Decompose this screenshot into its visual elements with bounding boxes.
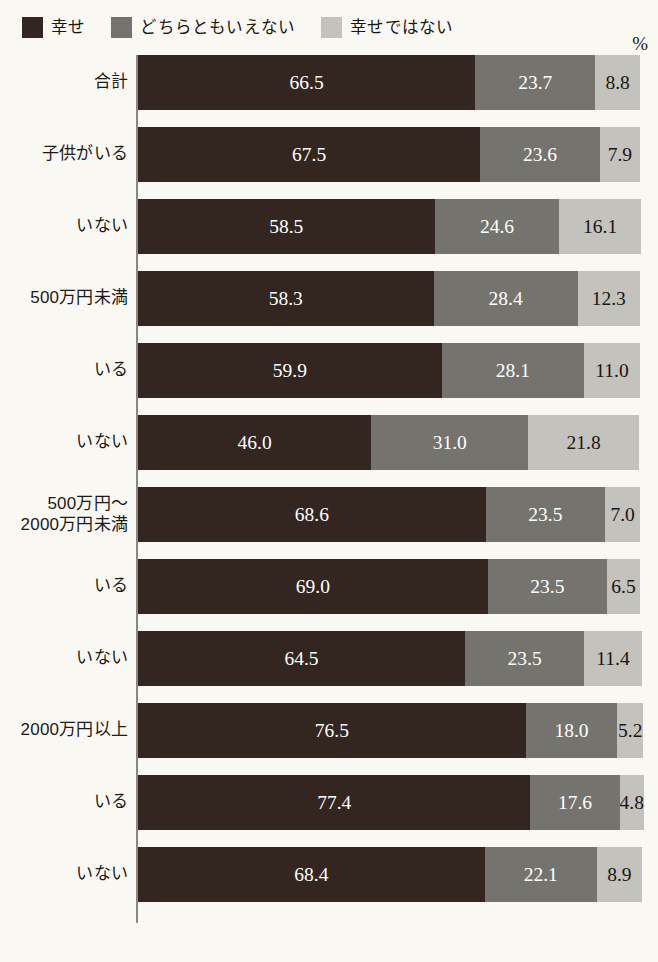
legend-label-1: どちらともいえない bbox=[140, 19, 295, 36]
bar-segment-1: 68.6 bbox=[138, 487, 486, 542]
row-label: いる bbox=[0, 559, 128, 614]
segment-value: 28.4 bbox=[489, 289, 523, 309]
row-label: いない bbox=[0, 415, 128, 470]
bar-segment-3: 8.8 bbox=[595, 55, 640, 110]
segment-value: 28.1 bbox=[496, 361, 530, 381]
bar-segment-1: 46.0 bbox=[138, 415, 371, 470]
bar-segment-1: 66.5 bbox=[138, 55, 475, 110]
bar-segment-2: 17.6 bbox=[530, 775, 619, 830]
bar-segment-2: 31.0 bbox=[371, 415, 528, 470]
segment-value: 76.5 bbox=[315, 721, 349, 741]
bar-segment-3: 11.0 bbox=[584, 343, 640, 398]
chart-page: 幸せどちらともいえない幸せではない % 合計66.523.78.8子供がいる67… bbox=[0, 0, 658, 962]
bar-row: いない58.524.616.1 bbox=[0, 199, 658, 254]
segment-value: 8.9 bbox=[607, 865, 631, 885]
segment-value: 66.5 bbox=[290, 73, 324, 93]
segment-value: 58.3 bbox=[269, 289, 303, 309]
bar-segment-2: 23.5 bbox=[486, 487, 605, 542]
segment-value: 24.6 bbox=[480, 217, 514, 237]
segment-value: 5.2 bbox=[618, 721, 642, 741]
bar-row: 子供がいる67.523.67.9 bbox=[0, 127, 658, 182]
stacked-bar: 69.023.56.5 bbox=[138, 559, 645, 614]
bar-row: いない64.523.511.4 bbox=[0, 631, 658, 686]
segment-value: 7.0 bbox=[610, 505, 634, 525]
percent-unit-label: % bbox=[632, 34, 648, 53]
legend-item-1: どちらともいえない bbox=[111, 17, 295, 38]
bar-rows: 合計66.523.78.8子供がいる67.523.67.9いない58.524.6… bbox=[0, 55, 658, 919]
bar-segment-3: 5.2 bbox=[617, 703, 643, 758]
legend-item-0: 幸せ bbox=[22, 17, 85, 38]
segment-value: 4.8 bbox=[620, 793, 644, 813]
legend-label-0: 幸せ bbox=[51, 19, 85, 36]
bar-segment-1: 64.5 bbox=[138, 631, 465, 686]
bar-row: 合計66.523.78.8 bbox=[0, 55, 658, 110]
segment-value: 12.3 bbox=[592, 289, 626, 309]
segment-value: 67.5 bbox=[292, 145, 326, 165]
segment-value: 64.5 bbox=[284, 649, 318, 669]
bar-segment-3: 16.1 bbox=[559, 199, 641, 254]
row-label: 2000万円以上 bbox=[0, 703, 128, 758]
segment-value: 68.4 bbox=[294, 865, 328, 885]
bar-segment-1: 58.5 bbox=[138, 199, 435, 254]
bar-segment-1: 76.5 bbox=[138, 703, 526, 758]
segment-value: 11.0 bbox=[595, 361, 628, 381]
segment-value: 46.0 bbox=[238, 433, 272, 453]
row-label: いる bbox=[0, 775, 128, 830]
legend-item-2: 幸せではない bbox=[321, 17, 453, 38]
stacked-bar: 58.524.616.1 bbox=[138, 199, 645, 254]
segment-value: 22.1 bbox=[524, 865, 558, 885]
segment-value: 7.9 bbox=[608, 145, 632, 165]
bar-segment-3: 6.5 bbox=[607, 559, 640, 614]
legend-swatch-happy bbox=[22, 17, 43, 38]
segment-value: 23.6 bbox=[523, 145, 557, 165]
row-label: 500万円未満 bbox=[0, 271, 128, 326]
segment-value: 68.6 bbox=[295, 505, 329, 525]
segment-value: 17.6 bbox=[558, 793, 592, 813]
legend-swatch-neutral bbox=[111, 17, 132, 38]
segment-value: 23.5 bbox=[530, 577, 564, 597]
row-label: 子供がいる bbox=[0, 127, 128, 182]
stacked-bar: 64.523.511.4 bbox=[138, 631, 645, 686]
segment-value: 23.5 bbox=[528, 505, 562, 525]
bar-segment-1: 59.9 bbox=[138, 343, 442, 398]
bar-row: 500万円〜 2000万円未満68.623.57.0 bbox=[0, 487, 658, 542]
bar-row: いる69.023.56.5 bbox=[0, 559, 658, 614]
bar-row: いない46.031.021.8 bbox=[0, 415, 658, 470]
segment-value: 21.8 bbox=[567, 433, 601, 453]
bar-segment-2: 28.1 bbox=[442, 343, 584, 398]
bar-row: 2000万円以上76.518.05.2 bbox=[0, 703, 658, 758]
bar-segment-3: 4.8 bbox=[620, 775, 644, 830]
plot-area: 合計66.523.78.8子供がいる67.523.67.9いない58.524.6… bbox=[0, 55, 658, 935]
stacked-bar: 68.422.18.9 bbox=[138, 847, 645, 902]
bar-segment-2: 23.5 bbox=[465, 631, 584, 686]
bar-segment-2: 23.5 bbox=[488, 559, 607, 614]
legend-label-2: 幸せではない bbox=[350, 19, 453, 36]
stacked-bar: 59.928.111.0 bbox=[138, 343, 645, 398]
segment-value: 16.1 bbox=[583, 217, 617, 237]
bar-segment-1: 69.0 bbox=[138, 559, 488, 614]
bar-segment-3: 7.0 bbox=[605, 487, 640, 542]
segment-value: 23.7 bbox=[518, 73, 552, 93]
bar-row: いる59.928.111.0 bbox=[0, 343, 658, 398]
stacked-bar: 66.523.78.8 bbox=[138, 55, 645, 110]
segment-value: 6.5 bbox=[611, 577, 635, 597]
stacked-bar: 46.031.021.8 bbox=[138, 415, 645, 470]
bar-segment-3: 11.4 bbox=[584, 631, 642, 686]
stacked-bar: 58.328.412.3 bbox=[138, 271, 645, 326]
bar-row: いる77.417.64.8 bbox=[0, 775, 658, 830]
segment-value: 18.0 bbox=[554, 721, 588, 741]
row-label: いない bbox=[0, 847, 128, 902]
segment-value: 69.0 bbox=[296, 577, 330, 597]
segment-value: 77.4 bbox=[317, 793, 351, 813]
stacked-bar: 67.523.67.9 bbox=[138, 127, 645, 182]
segment-value: 11.4 bbox=[596, 649, 629, 669]
bar-row: 500万円未満58.328.412.3 bbox=[0, 271, 658, 326]
bar-segment-3: 8.9 bbox=[597, 847, 642, 902]
row-label: いない bbox=[0, 199, 128, 254]
segment-value: 31.0 bbox=[433, 433, 467, 453]
row-label: いる bbox=[0, 343, 128, 398]
bar-segment-2: 18.0 bbox=[526, 703, 617, 758]
bar-segment-1: 77.4 bbox=[138, 775, 530, 830]
bar-segment-2: 24.6 bbox=[435, 199, 560, 254]
bar-segment-1: 67.5 bbox=[138, 127, 480, 182]
